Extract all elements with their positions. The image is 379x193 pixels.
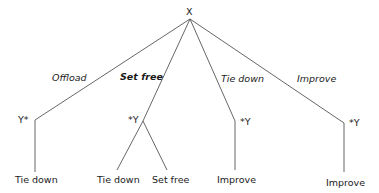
root-node-label: X [186, 7, 193, 17]
leaf-label-tie-down-1: Tie down [15, 175, 58, 185]
edge-label-tie-down: Tie down [221, 74, 264, 84]
leaf-label-tie-down-2: Tie down [97, 175, 140, 185]
node-label-4: *Y [349, 118, 360, 128]
node-label-3: *Y [240, 117, 251, 127]
edge-label-set-free: Set free [120, 72, 163, 82]
leaf-label-improve-1: Improve [217, 175, 256, 185]
tree-diagram: X Offload Set free Tie down Improve Y* *… [0, 0, 379, 193]
node-label-1: Y* [18, 115, 29, 125]
edge-label-offload: Offload [52, 73, 87, 83]
leaf-label-set-free: Set free [152, 175, 189, 185]
node-label-2: *Y [128, 115, 139, 125]
edge-label-improve: Improve [297, 74, 336, 84]
leaf-label-improve-2: Improve [326, 178, 365, 188]
tree-lines [0, 0, 379, 193]
